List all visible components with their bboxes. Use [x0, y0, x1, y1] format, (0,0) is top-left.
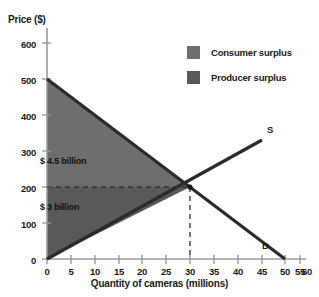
x-tick-label-35: 35 — [204, 266, 224, 277]
chart-canvas — [0, 0, 319, 297]
y-tick-label-100: 100 — [10, 219, 36, 230]
y-tick-label-500: 500 — [10, 75, 36, 86]
supply-curve-label: S — [267, 124, 273, 135]
x-tick-label-0: 0 — [37, 266, 57, 277]
x-tick-label-45: 45 — [252, 266, 272, 277]
supply-demand-chart: Price ($) — [0, 0, 319, 297]
x-tick-label-60: 60 — [300, 266, 314, 277]
x-axis-title: Quantity of cameras (millions) — [0, 278, 319, 289]
producer-surplus-value-label: $ 3 billion — [40, 202, 79, 212]
x-tick-label-25: 25 — [156, 266, 176, 277]
y-tick-label-400: 400 — [10, 111, 36, 122]
y-tick-label-200: 200 — [10, 183, 36, 194]
y-tick-label-300: 300 — [10, 147, 36, 158]
demand-curve-label: D — [262, 240, 269, 251]
x-tick-label-20: 20 — [132, 266, 152, 277]
y-tick-label-0: 0 — [10, 255, 36, 266]
equilibrium-point — [187, 184, 192, 189]
legend-label-consumer-surplus: Consumer surplus — [211, 47, 292, 58]
y-tick-label-600: 600 — [10, 39, 36, 50]
consumer-surplus-value-label: $ 4.5 billion — [40, 156, 86, 166]
legend-swatch-consumer-surplus — [187, 46, 200, 59]
x-tick-label-5: 5 — [61, 266, 81, 277]
x-tick-label-30: 30 — [180, 266, 200, 277]
x-tick-label-40: 40 — [228, 266, 248, 277]
legend-label-producer-surplus: Producer surplus — [211, 72, 286, 83]
x-tick-label-10: 10 — [85, 266, 105, 277]
x-tick-label-15: 15 — [109, 266, 129, 277]
legend-swatch-producer-surplus — [187, 71, 200, 84]
